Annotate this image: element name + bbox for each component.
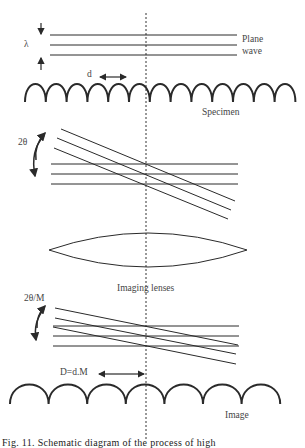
imaging-lenses-label: Imaging lenses [117, 284, 174, 294]
diffracted-beams-image [53, 308, 239, 364]
lambda-label: λ [24, 40, 29, 50]
image-label: Image [225, 411, 249, 421]
plane-wave-label-1: Plane [242, 35, 263, 45]
image-arcs [10, 385, 280, 405]
plane-wave-label-2: wave [242, 47, 262, 57]
figure-caption: Fig. 11. Schematic diagram of the proces… [2, 437, 216, 448]
specimen-label: Specimen [202, 108, 239, 118]
diffracted-beams-specimen [51, 129, 238, 219]
d-label: d [87, 70, 92, 80]
two-theta-label: 2θ [18, 138, 27, 148]
two-theta-over-m-label: 2θ/M [24, 294, 44, 304]
imaging-lens [49, 233, 247, 267]
specimen-arcs [25, 84, 295, 102]
plane-wave-lines [50, 35, 237, 55]
D-equals-label: D=d.M [60, 368, 88, 378]
